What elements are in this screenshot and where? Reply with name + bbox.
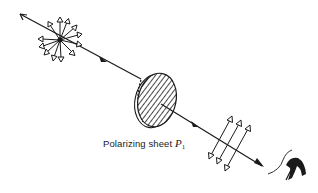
polarizing-sheet-disc — [130, 70, 181, 132]
label-symbol: P — [175, 137, 182, 149]
outgoing-light-ray — [161, 104, 264, 167]
unpolarized-light-burst — [38, 17, 82, 62]
polarizing-sheet-label: Polarizing sheet P1 — [103, 137, 185, 151]
label-subscript: 1 — [182, 143, 186, 151]
polarization-diagram — [0, 0, 318, 193]
ray-end-arrowhead-icon — [254, 158, 264, 167]
observer-eye-icon — [268, 150, 306, 180]
ray-arrowhead-icon — [99, 56, 107, 62]
label-text: Polarizing sheet — [103, 138, 175, 149]
incoming-light-ray — [20, 14, 141, 79]
polarized-light-arrows — [209, 116, 251, 171]
